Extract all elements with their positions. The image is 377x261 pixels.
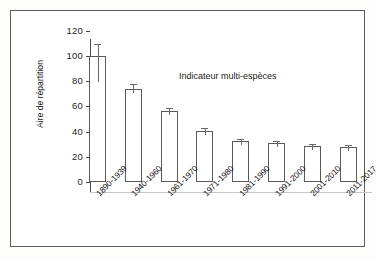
error-bar-cap	[273, 141, 280, 142]
error-bar-cap	[309, 144, 316, 145]
bars-layer	[11, 11, 366, 248]
error-bar-cap	[166, 108, 173, 109]
figure-frame: Aire de répartition Indicateur multi-esp…	[10, 10, 365, 247]
error-bar-cap	[237, 139, 244, 140]
bar	[340, 147, 357, 182]
scanned-page-background: Aire de répartition Indicateur multi-esp…	[0, 0, 377, 261]
error-bar-cap	[201, 128, 208, 129]
bar	[196, 131, 213, 182]
error-bar-stem	[133, 84, 134, 92]
error-bar-stem	[98, 44, 99, 82]
bar	[161, 111, 178, 182]
bar	[304, 146, 321, 182]
error-bar-cap	[130, 84, 137, 85]
error-bar-cap	[94, 44, 101, 45]
error-bar-cap	[345, 145, 352, 146]
bar	[268, 143, 285, 182]
bar	[232, 141, 249, 182]
